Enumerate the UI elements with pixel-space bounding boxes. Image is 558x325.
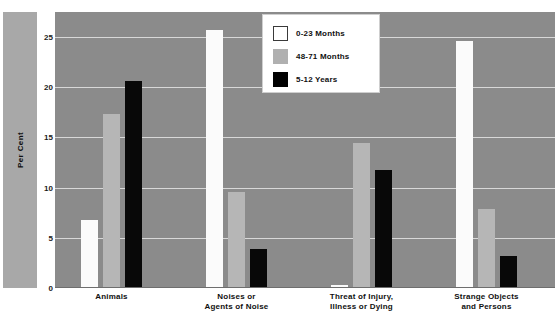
legend-item: 0-23 Months (273, 23, 379, 44)
x-axis-category-label: Noises or Agents of Noise (205, 292, 269, 312)
y-axis-tick-label: 20 (44, 83, 53, 92)
bar (250, 249, 267, 288)
legend-swatch-icon (273, 49, 288, 64)
legend-item-label: 48-71 Months (296, 52, 350, 61)
y-axis-tick-label: 0 (49, 284, 53, 293)
y-axis-title-strip: Per Cent (3, 12, 37, 288)
y-axis-tick-label: 25 (44, 33, 53, 42)
legend-item: 5-12 Years (273, 69, 379, 90)
bar (81, 220, 98, 288)
bar (125, 81, 142, 288)
bar-chart-figure: Per Cent 0510152025 0-23 Months 48-71 Mo… (0, 0, 558, 325)
bar (456, 41, 473, 288)
legend-item-label: 5-12 Years (296, 75, 337, 84)
x-axis-category-label: Threat of Injury, Illness or Dying (330, 292, 393, 312)
y-axis-tick-label: 10 (44, 183, 53, 192)
bar (206, 30, 223, 288)
x-axis-category-labels: AnimalsNoises or Agents of NoiseThreat o… (55, 292, 555, 323)
bar (500, 256, 517, 288)
bar (353, 143, 370, 288)
bar (375, 170, 392, 288)
x-axis-category-label: Strange Objects and Persons (454, 292, 518, 312)
legend-item: 48-71 Months (273, 46, 379, 67)
y-axis-title: Per Cent (16, 132, 25, 168)
bar (103, 114, 120, 288)
y-axis-tick-label: 15 (44, 133, 53, 142)
legend-swatch-icon (273, 26, 288, 41)
x-axis-category-label: Animals (95, 292, 128, 302)
legend-swatch-icon (273, 72, 288, 87)
y-axis-tick-labels: 0510152025 (37, 12, 55, 288)
axis-baseline (55, 287, 555, 288)
legend-item-label: 0-23 Months (296, 29, 345, 38)
legend: 0-23 Months 48-71 Months 5-12 Years (262, 14, 380, 93)
bar (228, 192, 245, 288)
bar (478, 209, 495, 288)
y-axis-tick-label: 5 (49, 233, 53, 242)
